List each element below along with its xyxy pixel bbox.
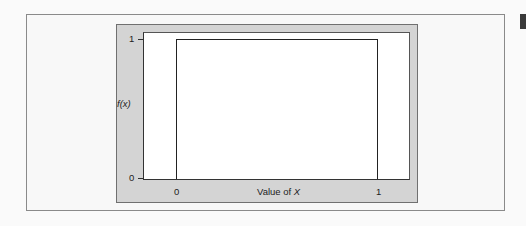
x-axis-label: Value of X: [257, 186, 300, 197]
y-axis-label: f(x): [117, 98, 131, 109]
uniform-density-line: [176, 39, 378, 179]
y-tick-0: [138, 178, 144, 179]
y-tick-label-0: 0: [129, 172, 134, 183]
page-edge-marker: [520, 14, 526, 29]
y-axis-label-x: (x): [120, 98, 131, 109]
x-tick-label-1: 1: [376, 186, 381, 197]
y-tick-1: [138, 39, 144, 40]
y-tick-label-1: 1: [129, 33, 134, 44]
x-axis-label-prefix: Value of: [257, 186, 294, 197]
x-axis-label-var: X: [294, 186, 300, 197]
x-tick-label-0: 0: [174, 186, 179, 197]
